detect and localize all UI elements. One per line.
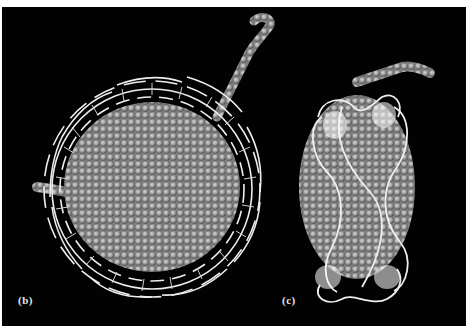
panel-label-b: (b) — [18, 294, 33, 306]
nucleosome-illustration — [2, 7, 466, 326]
panel-label-c: (c) — [282, 294, 296, 306]
panel-b-structure — [37, 18, 270, 298]
figure-panel: (b) (c) — [2, 7, 466, 326]
panel-c-structure — [299, 66, 430, 301]
